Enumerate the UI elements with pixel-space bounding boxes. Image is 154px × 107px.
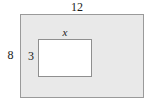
inner-rectangle — [38, 39, 92, 77]
outer-height-label: 8 — [4, 49, 17, 61]
inner-height-label: 3 — [25, 50, 37, 62]
outer-width-label: 12 — [0, 1, 154, 13]
inner-width-label: x — [38, 27, 92, 38]
figure-canvas: 12 8 x 3 — [0, 0, 154, 107]
